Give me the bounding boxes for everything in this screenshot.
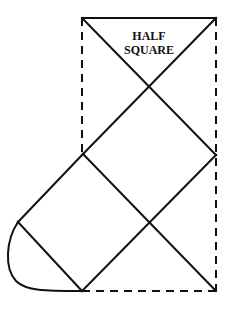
diagonal-left-to-farleft [18,154,83,222]
diagonal-farleft-to-bl [18,222,82,291]
label-half: HALF [132,29,165,43]
half-square-diagram: HALF SQUARE [0,0,231,314]
label-square: SQUARE [124,43,174,57]
toe-curve [8,222,82,291]
